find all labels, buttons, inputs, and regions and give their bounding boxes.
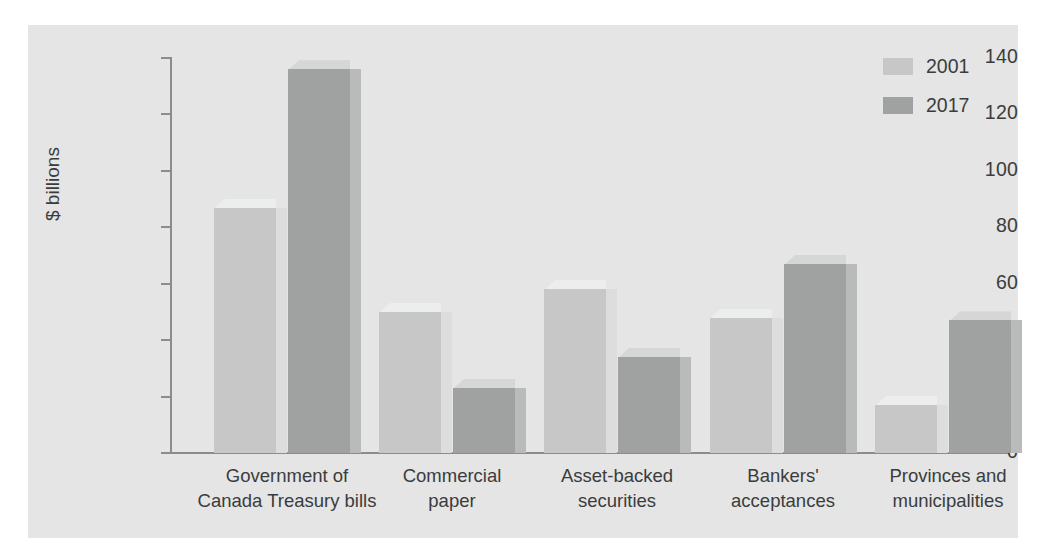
bar-side-face: [772, 318, 783, 453]
legend-item: 2001: [883, 55, 969, 78]
bar-2017: [618, 357, 680, 453]
bar-side-face: [350, 69, 361, 453]
bar-2017: [949, 320, 1011, 453]
bar-2001: [379, 312, 441, 453]
category-label: Provinces andmunicipalities: [818, 463, 1042, 513]
bar-side-face: [680, 357, 691, 453]
bar-2017: [784, 264, 846, 453]
bar-side-face: [606, 289, 617, 453]
bar-front-face: [379, 312, 441, 453]
bar-group: [544, 58, 680, 453]
y-tick-mark: [161, 226, 172, 228]
y-tick-mark: [161, 170, 172, 172]
bar-group: [710, 58, 846, 453]
bar-front-face: [544, 289, 606, 453]
y-tick-mark: [161, 339, 172, 341]
legend-swatch: [883, 58, 913, 75]
y-tick-mark: [161, 396, 172, 398]
bar-2001: [214, 208, 276, 453]
bar-side-face: [937, 405, 948, 453]
bar-front-face: [214, 208, 276, 453]
y-tick-mark: [161, 57, 172, 59]
legend-label: 2001: [926, 55, 969, 78]
legend-item: 2017: [883, 94, 969, 117]
bar-side-face: [1011, 320, 1022, 453]
y-tick-mark: [161, 452, 172, 454]
legend-swatch: [883, 97, 913, 114]
bar-group: [379, 58, 515, 453]
bar-front-face: [949, 320, 1011, 453]
category-label-line: Provinces and: [818, 463, 1042, 488]
bar-side-face: [515, 388, 526, 453]
bar-front-face: [875, 405, 937, 453]
bar-side-face: [441, 312, 452, 453]
bar-front-face: [710, 318, 772, 453]
y-tick-mark: [161, 113, 172, 115]
bar-2001: [875, 405, 937, 453]
chart-legend: 20012017: [883, 55, 969, 133]
bar-front-face: [784, 264, 846, 453]
y-axis-line: [170, 58, 172, 453]
bar-chart-figure: $ billions 140120100806040200 Government…: [28, 25, 1018, 538]
plot-area: $ billions 140120100806040200 Government…: [28, 25, 1018, 538]
bar-front-face: [288, 69, 350, 453]
bar-group: [214, 58, 350, 453]
legend-label: 2017: [926, 94, 969, 117]
bar-side-face: [846, 264, 857, 453]
bar-2001: [544, 289, 606, 453]
category-label-line: municipalities: [818, 488, 1042, 513]
y-axis-title: $ billions: [42, 147, 64, 221]
bar-front-face: [618, 357, 680, 453]
bar-front-face: [453, 388, 515, 453]
bar-side-face: [276, 208, 287, 453]
bar-2017: [288, 69, 350, 453]
y-tick-mark: [161, 283, 172, 285]
bar-2001: [710, 318, 772, 453]
bar-2017: [453, 388, 515, 453]
